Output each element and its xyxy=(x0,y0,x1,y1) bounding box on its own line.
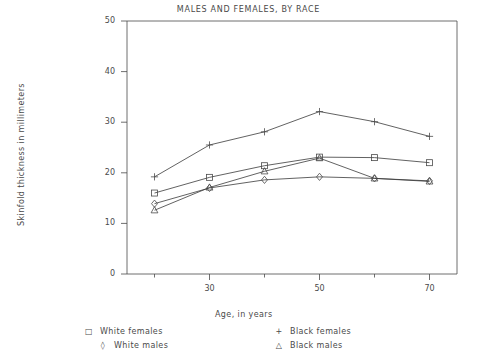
diamond-marker-icon: ◊ xyxy=(96,341,110,350)
x-tick-label: 50 xyxy=(308,284,332,293)
y-tick-label: 50 xyxy=(93,16,115,25)
y-tick-label: 10 xyxy=(93,218,115,227)
chart-legend: □ White females ◊ White males + Black fe… xyxy=(0,327,497,359)
y-tick-label: 40 xyxy=(93,67,115,76)
chart-plot-area xyxy=(0,0,497,359)
legend-item-white-females: □ White females xyxy=(82,327,163,336)
axes xyxy=(121,21,457,280)
data-series xyxy=(151,108,433,213)
legend-label: Black males xyxy=(286,341,343,350)
chart-figure: MALES AND FEMALES, BY RACE Skinfold thic… xyxy=(0,0,497,359)
series-white-females xyxy=(152,154,433,196)
legend-item-black-females: + Black females xyxy=(272,327,351,336)
square-marker-icon: □ xyxy=(82,327,96,336)
x-tick-label: 70 xyxy=(418,284,442,293)
legend-item-black-males: △ Black males xyxy=(272,341,343,350)
legend-label: White males xyxy=(110,341,168,350)
triangle-marker-icon: △ xyxy=(272,341,286,350)
x-axis-label: Age, in years xyxy=(215,310,395,319)
x-tick-label: 30 xyxy=(198,284,222,293)
series-black-males xyxy=(151,155,433,213)
series-white-males xyxy=(152,173,433,207)
series-black-females xyxy=(151,108,433,180)
plus-marker-icon: + xyxy=(272,327,286,336)
legend-label: White females xyxy=(96,327,163,336)
y-tick-label: 30 xyxy=(93,117,115,126)
legend-label: Black females xyxy=(286,327,351,336)
legend-item-white-males: ◊ White males xyxy=(96,341,168,350)
y-tick-label: 0 xyxy=(93,269,115,278)
y-tick-label: 20 xyxy=(93,168,115,177)
